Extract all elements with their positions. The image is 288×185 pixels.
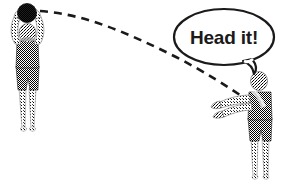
thrower-left-foot: [21, 127, 27, 131]
receiver-left-foot: [252, 175, 258, 179]
soccer-ball: [18, 4, 37, 23]
receiver-right-foot: [263, 175, 269, 179]
speech-bubble-text: Head it!: [190, 27, 258, 48]
illustration-canvas: Head it!: [0, 0, 288, 185]
thrower-right-foot: [30, 127, 36, 131]
thrower-shirt: [16, 41, 39, 68]
illustration-svg: Head it!: [0, 0, 288, 185]
